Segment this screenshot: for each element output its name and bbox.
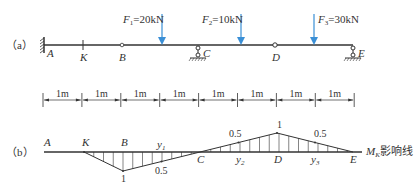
point-label-B-a: B: [119, 51, 126, 63]
ordinate-point: [314, 142, 316, 144]
arrow-left-icon: [122, 98, 127, 101]
point-label-D-b: D: [273, 153, 282, 165]
ordinate-label-half-1: 0.5: [155, 165, 168, 176]
arrow-right-icon: [270, 98, 275, 101]
ordinate-point: [83, 151, 85, 153]
ordinate-point: [238, 142, 240, 144]
arrow-left-icon: [239, 98, 244, 101]
y3-label: y3: [310, 153, 320, 167]
svg-text:F1=20kN: F1=20kN: [122, 13, 164, 27]
structural-diagram: （a）: [0, 0, 416, 195]
point-label-D-a: D: [271, 51, 280, 63]
arrow-left-icon: [277, 98, 282, 101]
fixed-support-A: [40, 37, 44, 53]
point-label-A-a: A: [46, 47, 54, 59]
arrow-right-icon: [309, 98, 314, 101]
dimension-label: 1m: [212, 88, 225, 99]
force-F1: F1=20kN: [122, 13, 166, 45]
arrow-right-icon: [76, 98, 81, 101]
point-label-K-a: K: [79, 51, 88, 63]
arrow-right-icon: [154, 98, 159, 101]
ordinate-label-half-2: 0.5: [229, 128, 242, 139]
ordinate-point: [161, 161, 163, 163]
ordinate-point: [276, 132, 278, 134]
dimension-label: 1m: [289, 88, 302, 99]
dimension-label: 1m: [56, 88, 69, 99]
ordinate-point: [122, 170, 124, 172]
dimension-line: 1m1m1m1m1m1m1m1m: [43, 88, 354, 107]
point-label-C-b: C: [197, 153, 205, 165]
point-label-B-b: B: [121, 136, 128, 148]
ordinate-label-B: 1: [121, 173, 126, 184]
dimension-label: 1m: [134, 88, 147, 99]
arrow-right-icon: [348, 98, 353, 101]
point-label-K-b: K: [81, 136, 90, 148]
arrow-left-icon: [44, 98, 49, 101]
dimension-label: 1m: [173, 88, 186, 99]
point-label-E-a: E: [357, 47, 365, 59]
arrow-left-icon: [161, 98, 166, 101]
svg-text:F2=10kN: F2=10kN: [201, 13, 243, 27]
dimension-label: 1m: [251, 88, 264, 99]
point-label-A-b: A: [43, 136, 51, 148]
arrow-right-icon: [193, 98, 198, 101]
arrow-right-icon: [232, 98, 237, 101]
y1-label: y1: [156, 138, 165, 152]
arrow-right-icon: [115, 98, 120, 101]
hinge-D: [273, 43, 277, 47]
dimension-label: 1m: [95, 88, 108, 99]
point-label-C-a: C: [203, 47, 211, 59]
force-F3: F3=30kN: [310, 13, 359, 45]
panel-label-b: （b）: [6, 146, 34, 158]
panel-label-a: （a）: [6, 39, 33, 51]
influence-line-caption: MK影响线: [365, 144, 413, 159]
arrow-left-icon: [83, 98, 88, 101]
svg-text:F3=30kN: F3=30kN: [317, 13, 359, 27]
force-F2: F2=10kN: [201, 13, 245, 45]
dimension-label: 1m: [328, 88, 341, 99]
ordinate-label-D: 1: [277, 119, 282, 130]
hinge-B: [120, 43, 124, 47]
ordinate-label-half-3: 0.5: [314, 128, 327, 139]
point-label-E-b: E: [349, 153, 357, 165]
arrow-left-icon: [200, 98, 205, 101]
arrow-left-icon: [316, 98, 321, 101]
y2-label: y2: [235, 153, 245, 167]
